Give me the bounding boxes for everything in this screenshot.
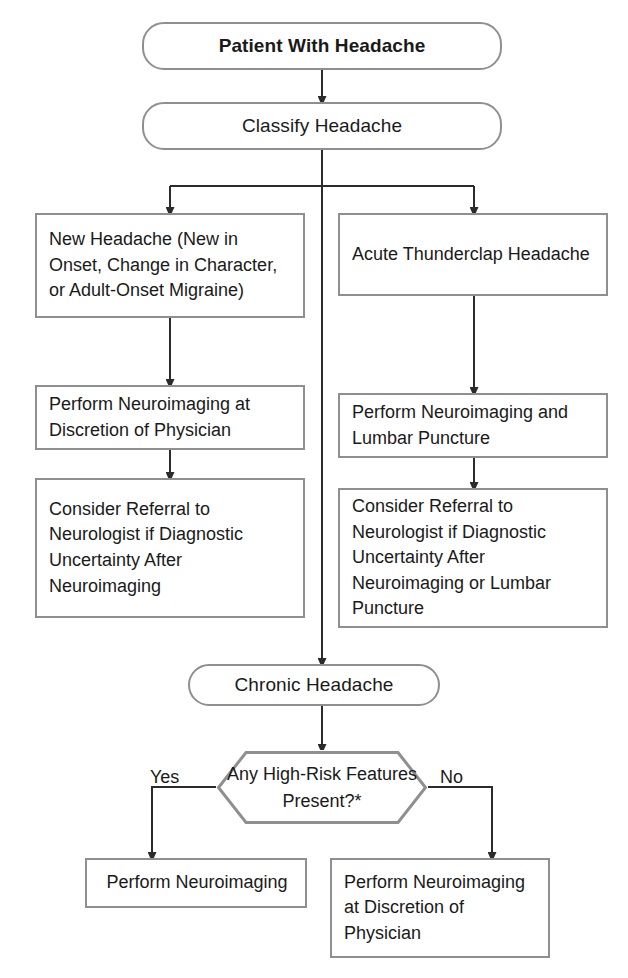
node-consider-referral-left-label: Consider Referral to Neurologist if Diag… [49,497,293,599]
edge-label-no: No [440,768,463,786]
node-consider-referral-left: Consider Referral to Neurologist if Diag… [35,478,305,618]
node-acute-thunderclap-headache-label: Acute Thunderclap Headache [352,242,590,268]
node-classify-headache-label: Classify Headache [242,115,402,137]
node-perform-neuroimaging-lumbar-puncture: Perform Neuroimaging and Lumbar Puncture [338,393,608,458]
edge-label-yes-text: Yes [150,767,179,787]
node-new-headache: New Headache (New in Onset, Change in Ch… [35,213,305,318]
node-chronic-headache-label: Chronic Headache [235,674,394,696]
edge-label-no-text: No [440,767,463,787]
node-classify-headache: Classify Headache [142,102,502,150]
node-start-label: Patient With Headache [219,35,426,57]
flowchart-canvas: Patient With Headache Classify Headache … [0,0,628,978]
node-decision-high-risk-features-label: Any High-Risk Features Present?* [216,761,428,813]
node-perform-neuroimaging-at-discretion-label: Perform Neuroimaging at Discretion of Ph… [344,870,538,947]
node-perform-neuroimaging-lumbar-puncture-label: Perform Neuroimaging and Lumbar Puncture [352,400,596,451]
node-consider-referral-right: Consider Referral to Neurologist if Diag… [338,488,608,628]
node-perform-neuroimaging: Perform Neuroimaging [85,858,307,908]
node-consider-referral-right-label: Consider Referral to Neurologist if Diag… [352,494,596,622]
node-new-headache-label: New Headache (New in Onset, Change in Ch… [49,227,293,304]
node-perform-neuroimaging-at-discretion: Perform Neuroimaging at Discretion of Ph… [330,858,550,958]
node-chronic-headache: Chronic Headache [188,664,440,706]
node-perform-neuroimaging-discretion-label: Perform Neuroimaging at Discretion of Ph… [49,392,293,443]
node-perform-neuroimaging-discretion: Perform Neuroimaging at Discretion of Ph… [35,385,305,450]
node-decision-high-risk-features: Any High-Risk Features Present?* [216,750,428,825]
clipped-footnote-caption [6,968,336,978]
node-acute-thunderclap-headache: Acute Thunderclap Headache [338,213,608,296]
node-start: Patient With Headache [142,22,502,70]
node-perform-neuroimaging-label: Perform Neuroimaging [106,870,287,896]
edge-label-yes: Yes [150,768,179,786]
